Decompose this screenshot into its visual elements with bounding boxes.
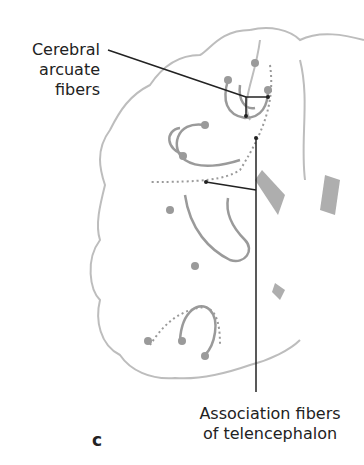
panel-letter: c: [92, 430, 102, 450]
label-line: fibers: [26, 80, 100, 100]
label-line: Association fibers: [180, 404, 360, 424]
label-line: arcuate: [26, 60, 100, 80]
label-cerebral-arcuate-fibers: Cerebral arcuate fibers: [26, 40, 100, 100]
label-line: of telencephalon: [180, 424, 360, 444]
label-line: Cerebral: [26, 40, 100, 60]
label-association-fibers: Association fibers of telencephalon: [180, 404, 360, 444]
